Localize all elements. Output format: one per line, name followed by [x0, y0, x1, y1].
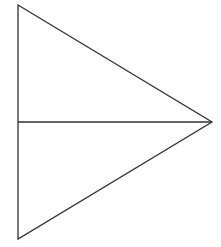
triangle-diagram: [0, 0, 221, 247]
background: [0, 0, 221, 247]
